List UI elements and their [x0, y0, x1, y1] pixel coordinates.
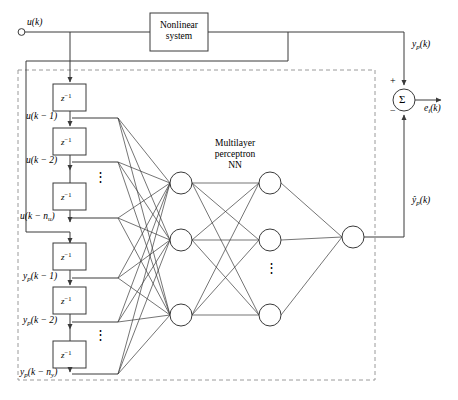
tap-label-u-k-nu: u(k − nu): [20, 212, 55, 223]
input-terminal-circle: [18, 29, 25, 36]
plant-output-label: yp(k): [412, 40, 430, 51]
tap-label-u-k-1: u(k − 1): [26, 112, 57, 122]
delay-dots-y: ⋮: [94, 330, 107, 339]
nn-hidden2-dots: ⋮: [265, 263, 278, 272]
nn-node-h2-2: [259, 229, 281, 251]
nn-dashed-boundary: [18, 70, 375, 380]
diagram-canvas: u(k) Nonlinear system yp(k) ŷp(k) Multi…: [0, 0, 458, 400]
delay-symbol-y2: z−1: [61, 295, 71, 306]
nn-node-h2-3: [259, 304, 281, 326]
delay-symbol-u2: z−1: [61, 136, 71, 147]
tap-label-yp-k-2: yp(k − 2): [23, 316, 57, 327]
nn-node-h1-1: [170, 172, 192, 194]
nn-hidden-weights: [192, 183, 259, 315]
tap-label-yp-k-ny: yp(k − ny): [20, 368, 57, 379]
tap-label-u-k-2: u(k − 2): [26, 156, 57, 166]
summing-plus-sign: +: [390, 75, 396, 86]
nn-title-label: Multilayer perceptron NN: [190, 138, 280, 171]
error-output-label: ei(k): [424, 104, 441, 115]
nn-output-weights: [281, 183, 342, 315]
nn-input-weights: [118, 118, 170, 374]
nn-node-h2-1: [259, 172, 281, 194]
plant-label: Nonlinear system: [150, 20, 208, 41]
delay-dots-u: ⋮: [94, 172, 107, 181]
nn-node-h1-3: [170, 304, 192, 326]
delay-symbol-u3: z−1: [61, 191, 71, 202]
summing-minus-sign: −: [390, 105, 396, 116]
delay-symbol-y1: z−1: [61, 251, 71, 262]
delay-symbol-y3: z−1: [61, 349, 71, 360]
input-label: u(k): [27, 18, 42, 28]
delay-symbol-u1: z−1: [61, 92, 71, 103]
nn-output-label: ŷp(k): [412, 196, 430, 207]
nn-node-h1-2: [170, 229, 192, 251]
tap-label-yp-k-1: yp(k − 1): [23, 272, 57, 283]
nn-node-output: [342, 226, 364, 248]
summing-symbol: Σ: [399, 93, 405, 105]
